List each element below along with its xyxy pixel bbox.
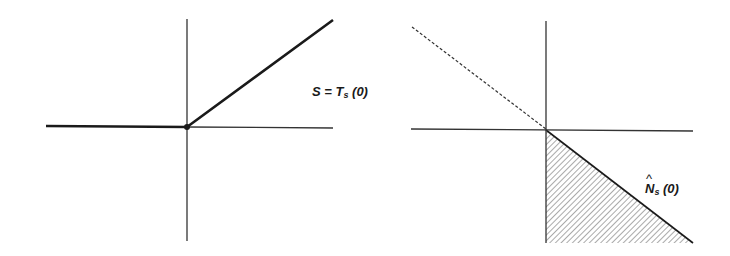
right-x-axis xyxy=(411,129,693,131)
left-label-main: S = T xyxy=(312,84,343,99)
left-x-axis xyxy=(187,127,333,128)
left-diagram xyxy=(46,19,333,241)
dashed-line xyxy=(412,27,546,129)
left-label-arg: (0) xyxy=(348,84,368,99)
hat-icon: ^ xyxy=(646,171,652,186)
left-curve-label: S = Ts (0) xyxy=(312,84,368,99)
right-label-arg: (0) xyxy=(659,181,679,196)
left-label-subscript: s xyxy=(343,90,348,100)
right-region-label: ^Ns (0) xyxy=(645,181,679,196)
left-origin-dot xyxy=(184,124,190,130)
left-kinked-curve xyxy=(46,20,333,127)
right-diagram xyxy=(411,21,693,243)
diagram-canvas xyxy=(0,0,730,256)
right-label-subscript: s xyxy=(654,187,659,197)
